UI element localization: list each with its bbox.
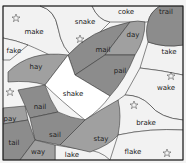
label-shake: shake — [63, 90, 83, 98]
label-stay: stay — [94, 135, 109, 143]
label-nail: nail — [34, 103, 47, 111]
label-pay: pay — [4, 115, 17, 123]
label-fake: fake — [7, 47, 22, 55]
label-snake: snake — [75, 18, 95, 26]
label-flake: flake — [125, 148, 142, 156]
label-make: make — [24, 28, 43, 36]
color-by-word-worksheet: make snake coke trail fake day take hay … — [0, 0, 186, 163]
label-wake: wake — [157, 84, 175, 92]
label-way: way — [31, 148, 45, 156]
label-sail: sail — [49, 131, 61, 139]
label-brake: brake — [136, 119, 156, 127]
label-day: day — [127, 31, 140, 39]
label-hay: hay — [30, 63, 43, 71]
label-trail: trail — [159, 8, 173, 16]
label-coke: coke — [118, 8, 134, 16]
label-pail: pail — [114, 67, 127, 75]
label-tail: tail — [9, 139, 20, 147]
region-flake — [110, 130, 183, 160]
label-lake: lake — [65, 151, 79, 159]
label-take: take — [161, 48, 176, 56]
label-mail: mail — [96, 46, 111, 54]
